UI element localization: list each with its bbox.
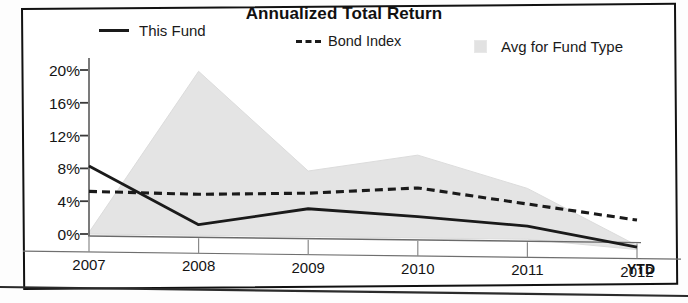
avg-for-fund-type-band: [89, 71, 637, 249]
x-axis-rule: [23, 251, 681, 259]
chart-inner: Annualized Total Return This Fund Bond I…: [0, 0, 688, 303]
page-bottom-edge: [0, 287, 688, 296]
annualized-total-return-chart: Annualized Total Return This Fund Bond I…: [0, 0, 688, 303]
plot-area: [0, 0, 688, 303]
